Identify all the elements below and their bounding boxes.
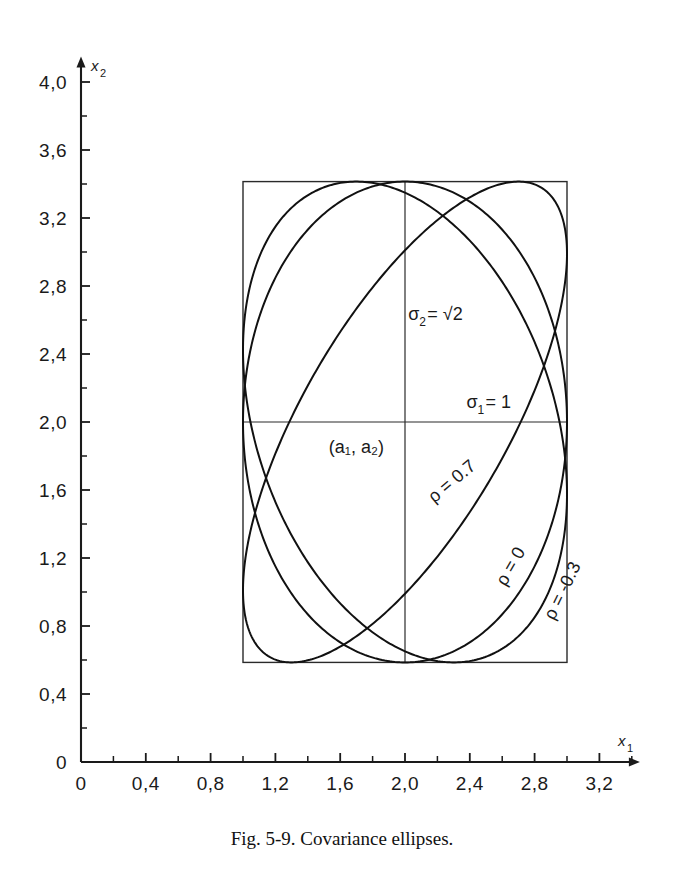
y-tick-label: 4,0 — [39, 72, 67, 93]
origin-label: 0 — [56, 752, 67, 773]
svg-text:2: 2 — [419, 315, 426, 329]
y-tick-label: 2,8 — [39, 276, 67, 297]
x-tick-label: 0,8 — [197, 773, 225, 794]
y-tick-label: 1,2 — [39, 548, 67, 569]
y-tick-label: 3,6 — [39, 140, 67, 161]
axis-lines — [77, 57, 640, 767]
y-axis-label: x2 — [90, 57, 106, 79]
y-tick-label: 3,2 — [39, 208, 67, 229]
svg-text:1: 1 — [478, 403, 485, 417]
svg-text:= √2: = √2 — [427, 304, 462, 324]
y-tick-label: 1,6 — [39, 480, 67, 501]
svg-text:σ: σ — [408, 304, 419, 324]
curve-label-rho-0: ρ = 0 — [492, 544, 530, 589]
sigma1-label: σ1= 1 — [467, 392, 512, 417]
x-axis-arrow — [629, 758, 640, 767]
x-axis-label: x1 — [617, 732, 633, 754]
x-tick-label: 1,2 — [261, 773, 289, 794]
x-tick-label: 0,4 — [132, 773, 160, 794]
center-point-label: (a₁, a₂) — [329, 437, 384, 457]
y-tick-label: 0,4 — [39, 684, 67, 705]
axis-tick-labels: 00,40,81,21,62,02,42,83,20,40,81,21,62,0… — [39, 57, 633, 795]
x-tick-label: 2,4 — [456, 773, 484, 794]
y-tick-label: 0,8 — [39, 616, 67, 637]
svg-text:x: x — [90, 57, 99, 74]
curve-label-rho-0.7: ρ = 0.7 — [424, 455, 480, 506]
x-tick-label: 1,6 — [326, 773, 354, 794]
svg-text:1: 1 — [627, 742, 633, 754]
x-tick-label: 2,0 — [391, 773, 419, 794]
figure-caption: Fig. 5-9. Covariance ellipses. — [0, 828, 684, 850]
svg-text:2: 2 — [100, 67, 106, 79]
x-tick-label: 3,2 — [585, 773, 613, 794]
covariance-ellipses-figure: 00,40,81,21,62,02,42,83,20,40,81,21,62,0… — [0, 0, 684, 871]
center-crosshair-lines — [243, 182, 567, 663]
sigma2-label: σ2= √2 — [408, 304, 462, 329]
plot-canvas: 00,40,81,21,62,02,42,83,20,40,81,21,62,0… — [0, 0, 684, 871]
plot-annotations: σ2= √2σ1= 1(a₁, a₂)ρ = 0.7ρ = 0ρ = -0.3 — [329, 304, 585, 623]
y-axis-arrow — [77, 57, 86, 68]
svg-text:x: x — [617, 732, 626, 749]
svg-text:= 1: = 1 — [486, 392, 512, 412]
y-tick-label: 2,4 — [39, 344, 67, 365]
x-tick-label: 0 — [75, 773, 86, 794]
curve-label-rho-neg0.3: ρ = -0.3 — [540, 558, 585, 622]
y-tick-label: 2,0 — [39, 412, 67, 433]
svg-text:σ: σ — [467, 392, 478, 412]
x-tick-label: 2,8 — [521, 773, 549, 794]
